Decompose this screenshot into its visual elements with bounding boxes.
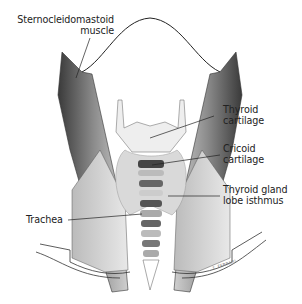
- label-line: Sternocleidomastoid: [14, 14, 114, 25]
- label-line: muscle: [14, 25, 114, 36]
- label-thyroid-gland: Thyroid gland lobe isthmus: [223, 184, 288, 206]
- thyroid-cartilage: [116, 100, 186, 152]
- label-line: lobe isthmus: [223, 195, 288, 206]
- label-cricoid-cartilage: Cricoid cartilage: [223, 143, 264, 165]
- label-line: Thyroid: [223, 104, 264, 115]
- label-sternocleidomastoid: Sternocleidomastoid muscle: [14, 14, 114, 36]
- label-line: Cricoid: [223, 143, 264, 154]
- label-thyroid-cartilage: Thyroid cartilage: [223, 104, 264, 126]
- label-line: cartilage: [223, 154, 264, 165]
- label-line: Thyroid gland: [223, 184, 288, 195]
- label-line: cartilage: [223, 115, 264, 126]
- label-trachea: Trachea: [26, 214, 63, 225]
- label-line: Trachea: [26, 214, 63, 225]
